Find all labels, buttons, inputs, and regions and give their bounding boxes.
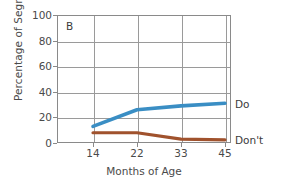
series-line-dont: [93, 133, 225, 140]
x-tick-label-14: 14: [78, 148, 108, 159]
y-tick-label-20: 20: [18, 112, 52, 123]
x-tick-label-22: 22: [122, 148, 152, 159]
x-axis-title: Months of Age: [57, 165, 231, 177]
y-tick-label-80: 80: [18, 36, 52, 47]
y-tick-label-100: 100: [18, 10, 52, 21]
y-axis-ticks: 100 80 60 40 20 0: [0, 0, 57, 186]
series-label-dont: Don't: [235, 135, 263, 146]
x-tick-label-45: 45: [210, 148, 240, 159]
series-label-do: Do: [235, 99, 250, 110]
y-tick-label-60: 60: [18, 61, 52, 72]
series-line-do: [93, 103, 225, 126]
x-tick-label-33: 33: [166, 148, 196, 159]
y-tick-label-40: 40: [18, 87, 52, 98]
chart-figure: Percentage of Segments 100 80 60 40 20 0…: [0, 0, 288, 186]
series-lines: [57, 15, 231, 143]
y-tick-label-0: 0: [18, 138, 52, 149]
y-tick-mark-0: [53, 143, 57, 144]
